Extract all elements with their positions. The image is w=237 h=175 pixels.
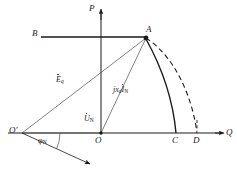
point-label-a: A	[146, 25, 152, 34]
phasor-overdot	[57, 74, 59, 76]
current-phasor-arrow	[22, 133, 90, 164]
eq-subscript: q	[61, 78, 64, 84]
point-label-o: O	[95, 136, 102, 145]
un-subscript: N	[90, 117, 94, 123]
phasor-overdot	[122, 84, 124, 86]
axis-label-p: P	[89, 4, 95, 13]
in-symbol: I	[122, 86, 125, 94]
axis-label-q: Q	[226, 128, 233, 137]
point-label-d: D	[193, 136, 200, 145]
solid-arc-a-to-c	[146, 39, 176, 133]
un-symbol: U	[84, 115, 90, 123]
un-phasor-label: UN	[84, 115, 94, 124]
eq-symbol: E	[56, 76, 61, 84]
point-label-c: C	[172, 136, 178, 145]
jxd-in-phasor-label: jxdIN	[113, 86, 128, 95]
phasor-overdot	[86, 113, 88, 115]
phi-n-angle-arc	[57, 133, 61, 149]
in-subscript: N	[124, 88, 128, 94]
point-marker-a	[144, 36, 149, 41]
phasor-diagram-figure: P Q B A C D O O' Eq UN jxdIN φN	[0, 0, 237, 175]
eq-phasor-label: Eq	[56, 76, 64, 85]
point-label-o-prime: O'	[9, 126, 17, 135]
point-label-b: B	[32, 29, 38, 38]
phi-n-angle-label: φN	[38, 137, 47, 146]
phi-subscript: N	[43, 139, 47, 145]
